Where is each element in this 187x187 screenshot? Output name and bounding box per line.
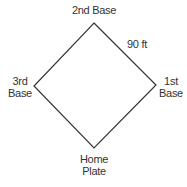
distance-label: 90 ft (122, 38, 152, 50)
first-base-line1: 1st (156, 75, 186, 87)
home-plate-line2: Plate (74, 165, 114, 177)
home-plate-label: Home Plate (74, 153, 114, 177)
home-plate-line1: Home (74, 153, 114, 165)
first-base-label: 1st Base (156, 75, 186, 99)
first-base-line2: Base (156, 87, 186, 99)
distance-text: 90 ft (122, 38, 152, 50)
third-base-line1: 3rd (5, 75, 35, 87)
second-base-text: 2nd Base (64, 4, 124, 16)
third-base-label: 3rd Base (5, 75, 35, 99)
second-base-label: 2nd Base (64, 4, 124, 16)
third-base-line2: Base (5, 87, 35, 99)
